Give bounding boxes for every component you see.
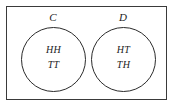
set-c-element-1: HH [21, 42, 86, 57]
set-label-c: C [43, 11, 63, 23]
set-label-d: D [113, 11, 133, 23]
set-d-element-1: HT [91, 42, 156, 57]
set-c-element-2: TT [21, 57, 86, 72]
set-d-elements: HT TH [91, 42, 156, 72]
set-d-element-2: TH [91, 57, 156, 72]
set-c-elements: HH TT [21, 42, 86, 72]
venn-diagram: C D HH TT HT TH [0, 0, 175, 109]
